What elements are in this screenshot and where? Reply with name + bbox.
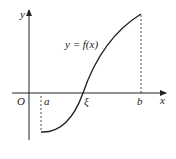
- curve-label: y = f(x): [64, 38, 98, 51]
- origin-label: O: [17, 95, 25, 107]
- point-b-label: b: [137, 95, 143, 107]
- function-curve: [41, 14, 141, 132]
- x-axis-label: x: [159, 94, 165, 106]
- point-a-label: a: [44, 95, 50, 107]
- point-xi-label: ξ: [84, 95, 89, 108]
- function-diagram: y x O a ξ b y = f(x): [0, 0, 176, 159]
- y-axis-label: y: [19, 8, 25, 20]
